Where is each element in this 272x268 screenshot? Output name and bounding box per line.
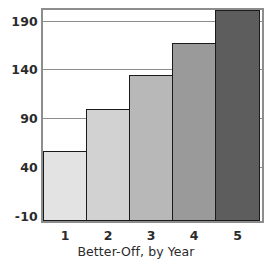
bar-year-2[interactable] (86, 109, 130, 221)
chart-figure: 190 140 90 40 -10 1 2 3 4 5 Better-Off, … (0, 0, 272, 268)
y-tick-label-190: 190 (2, 16, 38, 29)
x-axis-title: Better-Off, by Year (0, 246, 272, 259)
y-tick-label-90: 90 (2, 113, 38, 126)
y-tick-label-40: 40 (2, 162, 38, 175)
y-tick-label-140: 140 (2, 64, 38, 77)
bars-group (43, 10, 262, 221)
x-tick-label-3: 3 (129, 230, 173, 243)
bar-year-3[interactable] (129, 75, 173, 221)
x-tick-label-1: 1 (43, 230, 87, 243)
x-tick-label-2: 2 (86, 230, 130, 243)
y-tick-label--10: -10 (2, 211, 38, 224)
x-tick-label-4: 4 (172, 230, 216, 243)
bar-year-1[interactable] (43, 151, 87, 221)
bar-year-4[interactable] (172, 43, 216, 221)
x-tick-label-5: 5 (215, 230, 260, 243)
bar-year-5[interactable] (215, 10, 260, 221)
